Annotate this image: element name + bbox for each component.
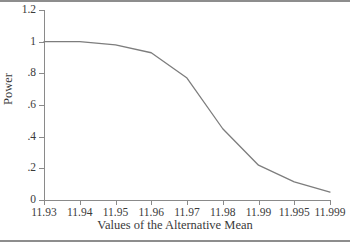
- plot-area: 0.2.4.6.811.2 11.9311.9411.9511.9611.971…: [44, 10, 330, 200]
- x-axis-tick-label: 11.95: [103, 207, 128, 219]
- x-axis-tick: [151, 200, 152, 205]
- x-axis-tick-label: 11.995: [279, 207, 310, 219]
- x-axis-tick: [330, 200, 331, 205]
- power-curve-figure: Power 0.2.4.6.811.2 11.9311.9411.9511.96…: [0, 0, 350, 242]
- x-axis-tick-label: 11.94: [67, 207, 92, 219]
- x-axis-tick-label: 11.99: [246, 207, 271, 219]
- x-axis-tick-label: 11.97: [174, 207, 199, 219]
- x-axis-tick: [223, 200, 224, 205]
- x-axis-tick: [116, 200, 117, 205]
- x-axis-tick: [259, 200, 260, 205]
- x-axis-tick-label: 11.96: [139, 207, 164, 219]
- y-axis-tick-label: 0: [30, 194, 36, 206]
- x-axis-tick-label: 11.93: [31, 207, 56, 219]
- x-axis-tick-label: 11.98: [210, 207, 235, 219]
- power-curve-svg: [44, 10, 330, 200]
- power-curve-line: [44, 42, 330, 192]
- y-axis-title: Power: [2, 73, 15, 105]
- y-axis-tick-label: .6: [27, 99, 36, 111]
- y-axis-tick-label: 1.2: [22, 4, 36, 16]
- y-axis-tick-label: .2: [27, 163, 36, 175]
- x-axis-tick: [44, 200, 45, 205]
- y-axis-tick-label: .4: [27, 131, 36, 143]
- y-axis-tick-label: 1: [30, 36, 36, 48]
- x-axis-title: Values of the Alternative Mean: [0, 219, 350, 232]
- x-axis-tick: [294, 200, 295, 205]
- x-axis-tick-label: 11.999: [314, 207, 345, 219]
- figure-top-rule: [0, 0, 350, 2]
- x-axis-tick: [80, 200, 81, 205]
- y-axis-tick-label: .8: [27, 68, 36, 80]
- x-axis-tick: [187, 200, 188, 205]
